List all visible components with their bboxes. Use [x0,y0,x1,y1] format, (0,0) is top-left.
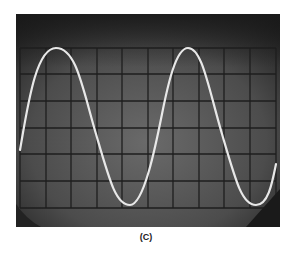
oscilloscope-screen [16,14,280,227]
figure-caption: (C) [0,232,292,242]
